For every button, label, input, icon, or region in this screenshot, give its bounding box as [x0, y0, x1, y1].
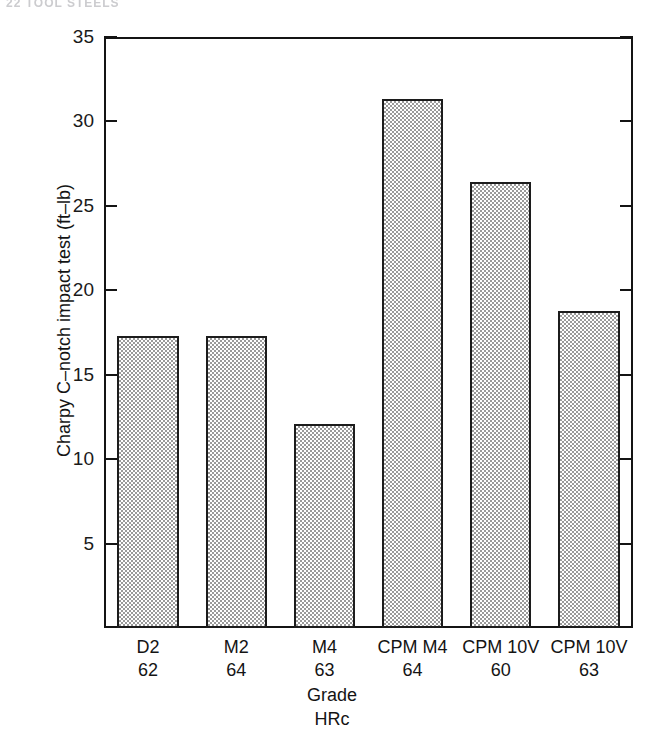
x-axis-title: Grade HRc [0, 683, 664, 731]
y-axis-tick-right [620, 458, 633, 460]
y-axis-tick [104, 36, 117, 38]
y-axis-title: Charpy C–notch impact test (ft–lb) [54, 71, 75, 571]
y-axis-tick [104, 374, 117, 376]
x-label-hrc: 63 [534, 659, 644, 682]
x-axis-title-line2: HRc [0, 707, 664, 731]
y-axis-tick [104, 458, 117, 460]
y-axis-tick [104, 120, 117, 122]
y-axis-tick [104, 543, 117, 545]
y-axis-tick [104, 205, 117, 207]
y-axis-tick-right [620, 36, 633, 38]
y-axis-tick-right [620, 205, 633, 207]
y-axis-tick-right [620, 289, 633, 291]
x-axis-category-label: CPM 10V63 [534, 636, 644, 682]
y-axis-tick-right [620, 120, 633, 122]
plot-area-frame [104, 37, 633, 628]
x-label-grade: CPM 10V [534, 636, 644, 659]
y-axis-tick-right [620, 374, 633, 376]
bar-chart-figure: 5101520253035 Charpy C–notch impact test… [0, 0, 664, 742]
x-axis-title-line1: Grade [0, 683, 664, 707]
y-axis-tick-label: 35 [56, 27, 94, 46]
y-axis-tick [104, 289, 117, 291]
y-axis-tick-right [620, 543, 633, 545]
